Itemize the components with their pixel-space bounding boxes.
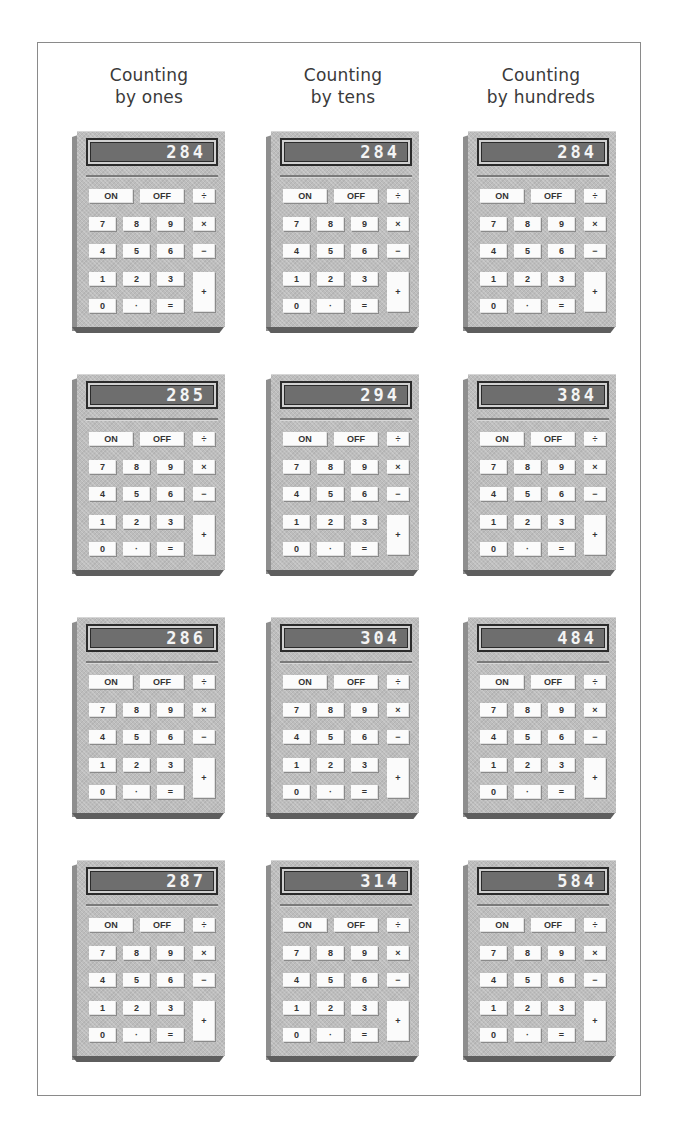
multiply-button[interactable]: × — [584, 460, 606, 474]
decimal-button[interactable]: · — [514, 299, 541, 313]
minus-button[interactable]: − — [387, 244, 409, 258]
key-1[interactable]: 1 — [89, 272, 116, 286]
key-0[interactable]: 0 — [283, 299, 310, 313]
key-4[interactable]: 4 — [283, 244, 310, 258]
key-8[interactable]: 8 — [514, 946, 541, 960]
equals-button[interactable]: = — [548, 785, 575, 799]
decimal-button[interactable]: · — [514, 1028, 541, 1042]
key-7[interactable]: 7 — [283, 946, 310, 960]
key-2[interactable]: 2 — [317, 758, 344, 772]
multiply-button[interactable]: × — [387, 703, 409, 717]
off-button[interactable]: OFF — [140, 189, 184, 203]
key-1[interactable]: 1 — [480, 272, 507, 286]
key-0[interactable]: 0 — [89, 299, 116, 313]
key-3[interactable]: 3 — [548, 515, 575, 529]
key-9[interactable]: 9 — [351, 460, 378, 474]
key-6[interactable]: 6 — [548, 973, 575, 987]
on-button[interactable]: ON — [89, 189, 133, 203]
decimal-button[interactable]: · — [123, 785, 150, 799]
key-3[interactable]: 3 — [548, 1001, 575, 1015]
off-button[interactable]: OFF — [334, 675, 378, 689]
key-7[interactable]: 7 — [480, 217, 507, 231]
key-3[interactable]: 3 — [157, 758, 184, 772]
on-button[interactable]: ON — [480, 432, 524, 446]
key-3[interactable]: 3 — [351, 272, 378, 286]
key-1[interactable]: 1 — [283, 515, 310, 529]
plus-button[interactable]: + — [584, 758, 606, 798]
off-button[interactable]: OFF — [531, 918, 575, 932]
decimal-button[interactable]: · — [123, 1028, 150, 1042]
plus-button[interactable]: + — [193, 272, 215, 312]
divide-button[interactable]: ÷ — [193, 432, 215, 446]
key-6[interactable]: 6 — [351, 730, 378, 744]
minus-button[interactable]: − — [387, 487, 409, 501]
key-1[interactable]: 1 — [89, 1001, 116, 1015]
multiply-button[interactable]: × — [387, 460, 409, 474]
key-0[interactable]: 0 — [480, 299, 507, 313]
equals-button[interactable]: = — [157, 1028, 184, 1042]
multiply-button[interactable]: × — [387, 217, 409, 231]
key-4[interactable]: 4 — [283, 730, 310, 744]
key-0[interactable]: 0 — [89, 1028, 116, 1042]
key-8[interactable]: 8 — [317, 217, 344, 231]
key-1[interactable]: 1 — [283, 1001, 310, 1015]
multiply-button[interactable]: × — [584, 946, 606, 960]
key-5[interactable]: 5 — [123, 244, 150, 258]
key-6[interactable]: 6 — [351, 973, 378, 987]
decimal-button[interactable]: · — [317, 299, 344, 313]
on-button[interactable]: ON — [283, 675, 327, 689]
minus-button[interactable]: − — [387, 730, 409, 744]
minus-button[interactable]: − — [193, 973, 215, 987]
key-7[interactable]: 7 — [283, 217, 310, 231]
equals-button[interactable]: = — [157, 542, 184, 556]
divide-button[interactable]: ÷ — [584, 189, 606, 203]
off-button[interactable]: OFF — [140, 918, 184, 932]
multiply-button[interactable]: × — [193, 946, 215, 960]
plus-button[interactable]: + — [584, 272, 606, 312]
divide-button[interactable]: ÷ — [387, 432, 409, 446]
key-9[interactable]: 9 — [548, 460, 575, 474]
key-1[interactable]: 1 — [283, 272, 310, 286]
decimal-button[interactable]: · — [514, 785, 541, 799]
key-2[interactable]: 2 — [514, 515, 541, 529]
key-0[interactable]: 0 — [283, 785, 310, 799]
key-7[interactable]: 7 — [480, 460, 507, 474]
key-6[interactable]: 6 — [548, 244, 575, 258]
key-9[interactable]: 9 — [157, 460, 184, 474]
plus-button[interactable]: + — [387, 1001, 409, 1041]
key-7[interactable]: 7 — [283, 460, 310, 474]
divide-button[interactable]: ÷ — [387, 675, 409, 689]
key-9[interactable]: 9 — [157, 703, 184, 717]
key-2[interactable]: 2 — [123, 1001, 150, 1015]
off-button[interactable]: OFF — [531, 675, 575, 689]
key-5[interactable]: 5 — [317, 973, 344, 987]
key-4[interactable]: 4 — [480, 487, 507, 501]
equals-button[interactable]: = — [351, 1028, 378, 1042]
key-1[interactable]: 1 — [89, 758, 116, 772]
key-4[interactable]: 4 — [89, 730, 116, 744]
key-4[interactable]: 4 — [480, 973, 507, 987]
plus-button[interactable]: + — [387, 272, 409, 312]
key-3[interactable]: 3 — [548, 758, 575, 772]
plus-button[interactable]: + — [584, 515, 606, 555]
key-3[interactable]: 3 — [351, 515, 378, 529]
key-7[interactable]: 7 — [89, 946, 116, 960]
key-5[interactable]: 5 — [514, 487, 541, 501]
key-8[interactable]: 8 — [123, 703, 150, 717]
decimal-button[interactable]: · — [317, 1028, 344, 1042]
key-0[interactable]: 0 — [480, 1028, 507, 1042]
key-3[interactable]: 3 — [548, 272, 575, 286]
key-8[interactable]: 8 — [123, 217, 150, 231]
plus-button[interactable]: + — [193, 515, 215, 555]
key-8[interactable]: 8 — [514, 460, 541, 474]
key-6[interactable]: 6 — [548, 730, 575, 744]
plus-button[interactable]: + — [387, 515, 409, 555]
key-5[interactable]: 5 — [514, 730, 541, 744]
key-1[interactable]: 1 — [480, 1001, 507, 1015]
on-button[interactable]: ON — [283, 918, 327, 932]
key-9[interactable]: 9 — [351, 946, 378, 960]
decimal-button[interactable]: · — [123, 542, 150, 556]
off-button[interactable]: OFF — [334, 918, 378, 932]
key-8[interactable]: 8 — [514, 703, 541, 717]
key-6[interactable]: 6 — [157, 973, 184, 987]
